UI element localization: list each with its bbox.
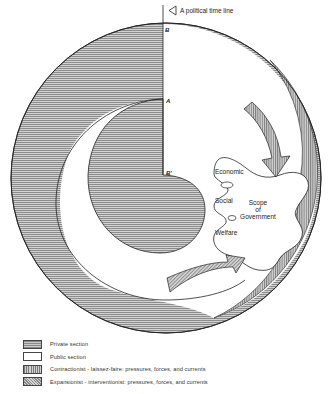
legend-item-contractionist: Contractionist - laissez-faire: pressure… — [23, 363, 323, 376]
legend-label: Contractionist - laissez-faire: pressure… — [50, 366, 206, 372]
time-line-arrow-icon — [169, 6, 176, 15]
public-swatch-icon — [23, 352, 42, 361]
point-a-label: A — [165, 98, 170, 104]
private-swatch-icon — [23, 340, 42, 349]
political-time-line-diagram: A political time line B A B' Economic So… — [0, 0, 331, 394]
point-b-label: B — [165, 27, 170, 33]
scope-label-line3: Government — [240, 213, 276, 220]
economic-label: Economic — [215, 168, 244, 175]
contractionist-swatch-icon — [23, 365, 42, 374]
welfare-label: Welfare — [215, 229, 238, 236]
legend-item-public: Public section — [23, 351, 323, 364]
blob-loop-lower — [228, 216, 236, 221]
legend-item-private: Private section — [23, 338, 323, 351]
point-b-prime-label: B' — [166, 170, 172, 176]
scope-label-line2: of — [255, 206, 261, 213]
legend-label: Public section — [50, 354, 86, 360]
blob-loop-upper — [221, 182, 233, 188]
legend-label: Expansionist - interventionist: pressure… — [50, 379, 208, 385]
legend-item-expansionist: Expansionist - interventionist: pressure… — [23, 376, 323, 389]
legend-label: Private section — [50, 341, 88, 347]
time-line-label: A political time line — [180, 7, 234, 15]
legend: Private section Public section Contracti… — [23, 338, 323, 388]
social-label: Social — [215, 197, 233, 204]
expansionist-swatch-icon — [23, 377, 42, 386]
